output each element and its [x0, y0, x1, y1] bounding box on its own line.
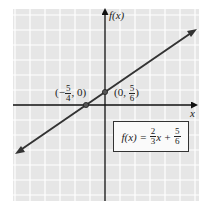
fraction: 56	[174, 127, 181, 146]
y-intercept-label: (0, 56)	[114, 84, 139, 103]
x-intercept-label: (−54, 0)	[55, 84, 86, 103]
x-intercept-point	[83, 102, 88, 107]
equation-box: f(x) = 23x + 56	[113, 121, 189, 152]
y-axis-label: f(x)	[109, 10, 124, 21]
chart-canvas	[0, 0, 213, 214]
y-intercept-point	[102, 89, 107, 94]
x-axis-label: x	[190, 108, 195, 119]
